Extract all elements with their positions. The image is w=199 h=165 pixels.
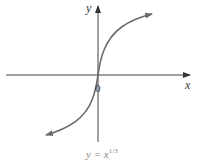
function-graph: y x 0 y = x1/3 [0,0,199,165]
y-axis-label: y [86,1,91,16]
caption-exponent: 1/3 [109,147,118,155]
x-axis-label: x [185,78,190,93]
function-caption: y = x1/3 [86,147,118,160]
origin-label: 0 [95,82,101,94]
caption-base: y = x [86,148,109,160]
